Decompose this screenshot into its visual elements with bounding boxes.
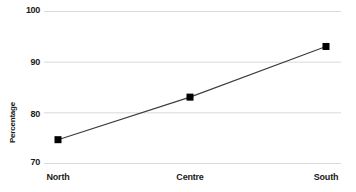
plot-area: [0, 0, 356, 192]
gridlines: [44, 12, 341, 164]
data-point-marker: [323, 43, 330, 50]
data-line: [58, 46, 326, 139]
data-point-marker: [187, 94, 194, 101]
data-point-marker: [55, 136, 62, 143]
data-markers: [55, 43, 330, 143]
line-chart: Percentage 100 90 80 70 North Centre Sou…: [0, 0, 356, 192]
